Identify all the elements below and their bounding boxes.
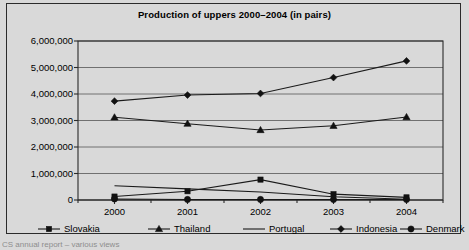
chart-title: Production of uppers 2000–2004 (in pairs… (0, 9, 469, 20)
chart-frame (6, 3, 461, 234)
figure-caption: CS annual report – various views (2, 240, 202, 249)
